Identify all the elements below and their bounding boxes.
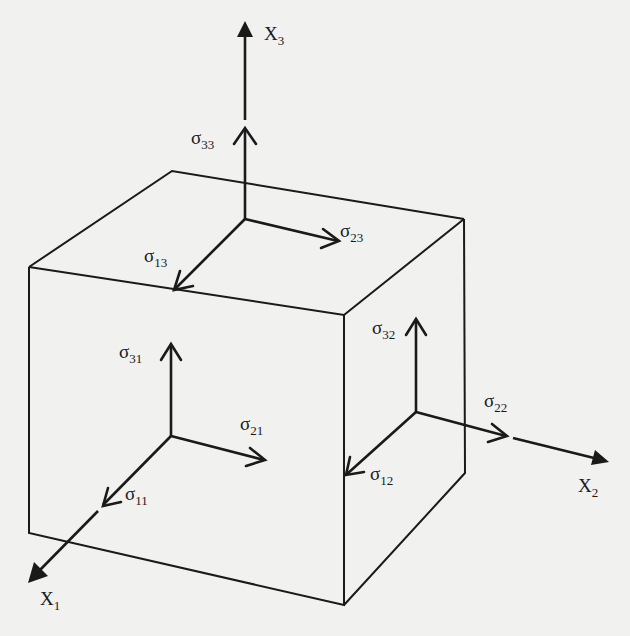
x3-axis xyxy=(237,21,253,120)
x2-arrowhead-icon xyxy=(591,450,609,465)
sigma23-label: σ23 xyxy=(340,220,363,245)
x1-axis-line xyxy=(38,511,98,572)
sigma22-label: σ22 xyxy=(484,390,507,415)
sigma13-label: σ13 xyxy=(144,245,167,270)
x1-label: X1 xyxy=(40,588,60,613)
right-face-stresses xyxy=(346,319,507,475)
sigma11-label: σ11 xyxy=(125,483,148,508)
stress-cube-diagram: X3 X1 X2 σ33 σ23 σ13 σ31 σ21 σ11 σ32 σ22… xyxy=(0,0,630,636)
top-face-stresses xyxy=(174,128,339,290)
sigma12-label: σ12 xyxy=(370,463,393,488)
x3-label: X3 xyxy=(264,23,284,48)
cube-right-face xyxy=(344,219,465,605)
x3-arrowhead-icon xyxy=(237,21,253,37)
sigma31-label: σ31 xyxy=(119,341,142,366)
sigma33-label: σ33 xyxy=(191,127,214,152)
cube-front-face xyxy=(29,267,344,605)
sigma13-arrow xyxy=(175,219,245,289)
sigma32-label: σ32 xyxy=(372,317,395,342)
x2-axis-line xyxy=(513,438,594,458)
labels: X3 X1 X2 σ33 σ23 σ13 σ31 σ21 σ11 σ32 σ22… xyxy=(40,23,598,613)
sigma12-arrow xyxy=(347,412,416,474)
cube-top-edge-front xyxy=(29,219,464,315)
x2-axis xyxy=(513,438,609,465)
cube xyxy=(29,171,465,605)
x2-label: X2 xyxy=(578,475,598,500)
sigma21-label: σ21 xyxy=(240,413,263,438)
